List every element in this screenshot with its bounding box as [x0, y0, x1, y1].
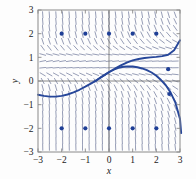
- x-tick-label: 0: [107, 155, 112, 165]
- lattice-dot: [166, 67, 170, 71]
- lattice-dot: [131, 126, 135, 130]
- y-tick-label: 1: [29, 53, 34, 63]
- x-tick-label: −2: [57, 155, 67, 165]
- tick-labels-group: −3−2−10123−3−2−10123: [23, 5, 182, 164]
- y-tick-label: −1: [23, 100, 33, 110]
- lattice-dot: [167, 92, 171, 96]
- lattice-dot: [60, 32, 64, 36]
- x-tick-label: −3: [33, 155, 43, 165]
- x-tick-label: 1: [130, 155, 135, 165]
- y-tick-label: 3: [29, 5, 34, 15]
- y-tick-label: 2: [29, 29, 34, 39]
- lattice-dot: [83, 126, 87, 130]
- x-tick-label: 2: [154, 155, 159, 165]
- y-tick-label: −2: [23, 124, 33, 134]
- lattice-dot: [107, 32, 111, 36]
- plot-canvas: −3−2−10123−3−2−10123 x y: [0, 0, 196, 179]
- lattice-dot: [83, 32, 87, 36]
- lattice-dot: [154, 32, 158, 36]
- lattice-dot: [131, 32, 135, 36]
- slope-field-figure: −3−2−10123−3−2−10123 x y: [0, 0, 196, 179]
- x-tick-label: 3: [178, 155, 183, 165]
- y-axis-title: y: [9, 78, 20, 84]
- y-tick-label: −3: [23, 147, 33, 157]
- interior-axes-group: [38, 10, 180, 152]
- x-axis-title: x: [106, 165, 112, 176]
- lattice-dot: [107, 126, 111, 130]
- y-tick-label: 0: [29, 76, 34, 86]
- lattice-dot: [154, 126, 158, 130]
- lattice-dot: [60, 126, 64, 130]
- x-tick-label: −1: [80, 155, 90, 165]
